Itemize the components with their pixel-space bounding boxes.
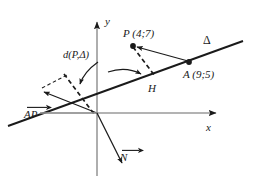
vector-arrow-overbar-n [120,146,127,152]
construction-dashed-projection [64,74,94,114]
point-A-dot [186,59,192,65]
callout-arrow-distance [108,69,141,74]
vector-AP-label: AP [24,103,37,120]
point-P-label: P (4;7) [123,28,154,39]
vector-N [97,113,122,163]
point-A-label: A (9;5) [183,69,214,80]
point-H-label: H [148,83,156,94]
line-delta-label: Δ [203,34,211,46]
callout-arrow-projection [80,62,98,84]
vector-N-label: N [120,146,127,163]
distance-label: d(P,Δ) [63,50,89,61]
construction-dashed-top [42,75,67,88]
point-P-dot [130,43,136,49]
vector-AP-translated [137,47,188,61]
y-axis-label: y [105,16,110,27]
vector-arrow-overbar-ap [24,103,37,109]
x-axis-label: x [206,122,211,133]
